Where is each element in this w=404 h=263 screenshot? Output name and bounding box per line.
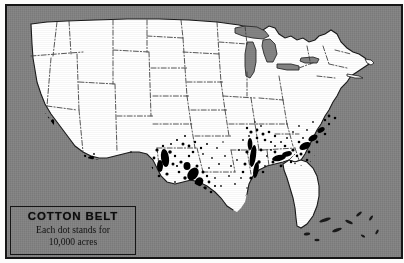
legend-description-line1: Each dot stands for	[11, 224, 135, 236]
florida-peninsula	[283, 160, 319, 228]
lake-erie	[277, 64, 299, 70]
bahamas-islands	[304, 211, 380, 241]
landmass-layer	[31, 19, 374, 228]
legend-title: COTTON BELT	[11, 210, 135, 223]
map-frame: COTTON BELT Each dot stands for 10,000 a…	[5, 4, 403, 259]
dots-new-mexico	[128, 151, 141, 165]
map-page: COTTON BELT Each dot stands for 10,000 a…	[0, 0, 404, 263]
map-legend: COTTON BELT Each dot stands for 10,000 a…	[10, 206, 136, 255]
legend-description-line2: 10,000 acres	[11, 236, 135, 248]
dots-north-carolina	[324, 113, 346, 125]
